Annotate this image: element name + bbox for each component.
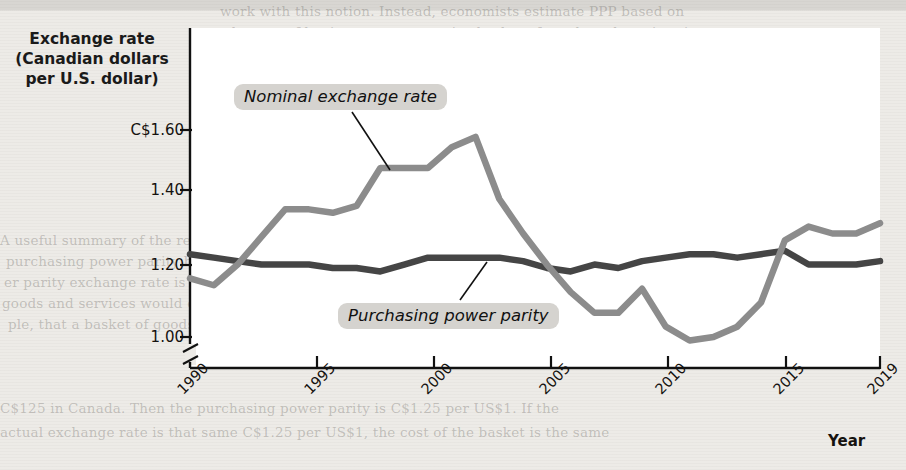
series-annotation-ppp: Purchasing power parity — [338, 303, 559, 329]
chart-svg — [0, 0, 906, 470]
leader-line-nominal — [352, 112, 390, 170]
series-annotation-nominal: Nominal exchange rate — [234, 84, 447, 110]
y-axis-break-icon — [183, 344, 198, 368]
leader-line-ppp — [460, 262, 487, 300]
